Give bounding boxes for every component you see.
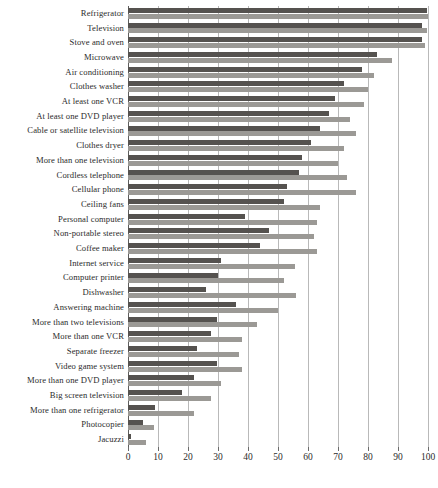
category-label: Non-portable stereo <box>0 229 128 238</box>
bar-series-b <box>128 249 317 254</box>
category-label: Internet service <box>0 259 128 268</box>
category-label: Clothes dryer <box>0 141 128 150</box>
bar-group <box>128 94 428 109</box>
bar-group <box>128 65 428 80</box>
x-tick-label-20: 20 <box>183 452 193 462</box>
bar-series-a <box>128 420 143 425</box>
bar-group <box>128 212 428 227</box>
category-label: Big screen television <box>0 391 128 400</box>
category-label: Coffee maker <box>0 244 128 253</box>
category-label: Video game system <box>0 362 128 371</box>
bar-series-a <box>128 317 217 322</box>
bar-group <box>128 227 428 242</box>
x-tick-label-40: 40 <box>243 452 253 462</box>
bar-series-b <box>128 28 427 33</box>
x-axis: 0102030405060708090100 <box>128 447 428 477</box>
bar-series-b <box>128 87 368 92</box>
bar-group <box>128 300 428 315</box>
category-label: More than one VCR <box>0 332 128 341</box>
bar-series-a <box>128 375 194 380</box>
bar-series-b <box>128 175 347 180</box>
bar-group <box>128 374 428 389</box>
x-tick-mark-0 <box>128 447 129 451</box>
category-label: Cellular phone <box>0 185 128 194</box>
bar-group <box>128 359 428 374</box>
category-label: Cable or satellite television <box>0 126 128 135</box>
category-label: More than one DVD player <box>0 376 128 385</box>
bar-series-b <box>128 58 392 63</box>
bar-series-b <box>128 440 146 445</box>
bar-series-a <box>128 184 287 189</box>
bar-group <box>128 168 428 183</box>
bar-group <box>128 344 428 359</box>
category-label: Photocopier <box>0 420 128 429</box>
category-label: At least one VCR <box>0 97 128 106</box>
category-label: Personal computer <box>0 215 128 224</box>
category-label: Air conditioning <box>0 68 128 77</box>
bar-group <box>128 271 428 286</box>
bar-series-b <box>128 425 154 430</box>
gridline-100 <box>428 6 429 447</box>
bar-group <box>128 285 428 300</box>
bar-series-b <box>128 43 425 48</box>
bar-series-a <box>128 346 197 351</box>
bar-series-b <box>128 337 242 342</box>
category-label: Ceiling fans <box>0 200 128 209</box>
x-tick-mark-50 <box>278 447 279 451</box>
bar-group <box>128 124 428 139</box>
x-tick-mark-60 <box>308 447 309 451</box>
bar-series-b <box>128 308 278 313</box>
bar-series-a <box>128 199 284 204</box>
appliance-ownership-bar-chart: RefrigeratorTelevisionStove and ovenMicr… <box>0 0 438 488</box>
category-label: Television <box>0 24 128 33</box>
bar-series-a <box>128 23 422 28</box>
x-tick-mark-30 <box>218 447 219 451</box>
bar-series-b <box>128 396 211 401</box>
bar-series-b <box>128 14 428 19</box>
category-label: Dishwasher <box>0 288 128 297</box>
category-label: Stove and oven <box>0 38 128 47</box>
bar-series-a <box>128 8 427 13</box>
bar-group <box>128 241 428 256</box>
bar-series-b <box>128 278 284 283</box>
bar-series-a <box>128 67 362 72</box>
bar-series-a <box>128 52 377 57</box>
bar-series-b <box>128 205 320 210</box>
bar-series-b <box>128 220 317 225</box>
bar-series-b <box>128 293 296 298</box>
bar-group <box>128 315 428 330</box>
bar-group <box>128 256 428 271</box>
bar-group <box>128 403 428 418</box>
category-label: Microwave <box>0 53 128 62</box>
bar-series-a <box>128 273 218 278</box>
category-label: Jacuzzi <box>0 435 128 444</box>
category-label: Computer printer <box>0 273 128 282</box>
bar-series-b <box>128 234 314 239</box>
category-label: More than one refrigerator <box>0 406 128 415</box>
bar-group <box>128 80 428 95</box>
bar-series-b <box>128 352 239 357</box>
bar-group <box>128 329 428 344</box>
bar-group <box>128 432 428 447</box>
bar-series-a <box>128 434 131 439</box>
x-tick-mark-70 <box>338 447 339 451</box>
bars-layer <box>128 6 428 447</box>
bar-series-a <box>128 287 206 292</box>
bar-group <box>128 182 428 197</box>
category-label: Cordless telephone <box>0 171 128 180</box>
bar-series-b <box>128 367 242 372</box>
bar-series-b <box>128 381 221 386</box>
x-tick-label-60: 60 <box>303 452 313 462</box>
bar-series-b <box>128 264 295 269</box>
bar-series-b <box>128 73 374 78</box>
bar-series-a <box>128 81 344 86</box>
x-tick-label-70: 70 <box>333 452 343 462</box>
x-tick-mark-80 <box>368 447 369 451</box>
category-label: More than one television <box>0 156 128 165</box>
category-label: Clothes washer <box>0 82 128 91</box>
bar-series-a <box>128 405 155 410</box>
bar-series-a <box>128 302 236 307</box>
bar-series-b <box>128 131 356 136</box>
bar-series-a <box>128 228 269 233</box>
bar-series-b <box>128 322 257 327</box>
